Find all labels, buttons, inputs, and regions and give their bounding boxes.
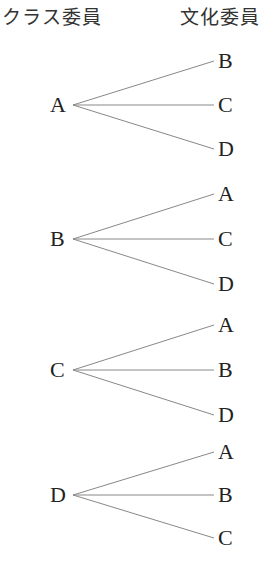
root-node: B bbox=[50, 228, 65, 250]
leaf-node: C bbox=[218, 94, 233, 116]
branch-line bbox=[73, 370, 214, 415]
leaf-node: D bbox=[218, 273, 234, 295]
branch-line bbox=[73, 194, 214, 239]
root-node: A bbox=[50, 94, 66, 116]
branch-line bbox=[73, 61, 214, 105]
leaf-node: B bbox=[218, 359, 233, 381]
leaf-node: D bbox=[218, 404, 234, 426]
root-node: C bbox=[50, 359, 65, 381]
leaf-node: C bbox=[218, 527, 233, 549]
branch-line bbox=[73, 495, 214, 538]
leaf-node: A bbox=[218, 441, 234, 463]
branch-line bbox=[73, 105, 214, 149]
root-node: D bbox=[50, 484, 66, 506]
leaf-node: B bbox=[218, 50, 233, 72]
leaf-node: D bbox=[218, 138, 234, 160]
leaf-node: A bbox=[218, 314, 234, 336]
leaf-node: C bbox=[218, 228, 233, 250]
branch-line bbox=[73, 452, 214, 495]
branch-line bbox=[73, 239, 214, 284]
branch-line bbox=[73, 325, 214, 370]
leaf-node: B bbox=[218, 484, 233, 506]
leaf-node: A bbox=[218, 183, 234, 205]
